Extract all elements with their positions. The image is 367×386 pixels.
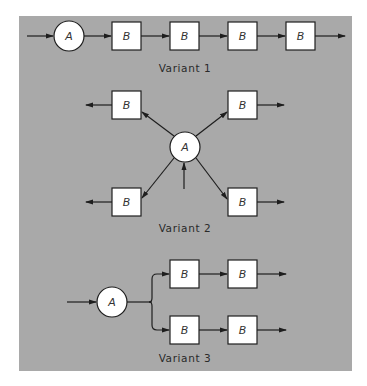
stage-node-b: B xyxy=(170,22,199,50)
stage-node-b: B xyxy=(286,22,315,50)
node-label: B xyxy=(123,196,131,209)
node-label: B xyxy=(123,30,131,43)
source-node-a: A xyxy=(54,21,84,51)
node-label: B xyxy=(239,30,247,43)
hub-node-a: A xyxy=(170,132,200,162)
lower-stage-node-b: B xyxy=(228,316,257,344)
node-label: B xyxy=(297,30,305,43)
node-label: B xyxy=(181,268,189,281)
node-label: A xyxy=(107,296,116,309)
variant-1-caption: Variant 1 xyxy=(159,62,212,74)
variant-3-caption: Variant 3 xyxy=(159,352,212,364)
upper-stage-node-b: B xyxy=(170,260,199,288)
flow-variants-diagram: A B B B B Variant 1 xyxy=(0,0,367,386)
node-label: B xyxy=(239,196,247,209)
node-label: B xyxy=(123,99,131,112)
node-label: A xyxy=(180,141,189,154)
variant-2-caption: Variant 2 xyxy=(159,222,212,234)
branch-node-b-bottom-left: B xyxy=(112,188,141,216)
node-label: B xyxy=(181,324,189,337)
stage-node-b: B xyxy=(228,22,257,50)
node-label: A xyxy=(64,30,73,43)
source-node-a: A xyxy=(97,287,127,317)
node-label: B xyxy=(239,99,247,112)
branch-node-b-bottom-right: B xyxy=(228,188,257,216)
lower-stage-node-b: B xyxy=(170,316,199,344)
stage-node-b: B xyxy=(112,22,141,50)
node-label: B xyxy=(239,324,247,337)
upper-stage-node-b: B xyxy=(228,260,257,288)
node-label: B xyxy=(181,30,189,43)
branch-node-b-top-left: B xyxy=(112,91,141,119)
branch-node-b-top-right: B xyxy=(228,91,257,119)
node-label: B xyxy=(239,268,247,281)
